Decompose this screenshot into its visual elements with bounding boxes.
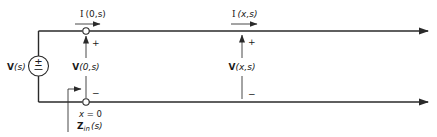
line-voltage-plus: + (248, 37, 256, 47)
input-voltage-plus: + (92, 38, 100, 48)
line-voltage-minus: − (248, 89, 256, 99)
input-current: I(0,s) (75, 9, 106, 24)
input-terminal-bottom-icon (83, 99, 89, 105)
source-polarity-symbol: ± (34, 57, 42, 68)
source-label: V(s) (7, 62, 26, 72)
input-impedance-label: Zin(s) (77, 121, 103, 133)
line-voltage: + V(x,s) − (229, 35, 256, 99)
line-current-label: I(x,s) (232, 9, 257, 19)
input-voltage-label: V(0,s) (72, 62, 99, 72)
line-current: I(x,s) (231, 9, 257, 24)
input-terminal-top-icon (83, 28, 89, 34)
voltage-source: ± V(s) (7, 56, 49, 76)
input-voltage-minus: − (92, 88, 100, 98)
transmission-line-diagram: ± V(s) I(0,s) + V(0,s) − x = 0 Zin(s) (0, 0, 437, 137)
line-voltage-label: V(x,s) (229, 62, 256, 72)
input-current-label: I(0,s) (80, 9, 106, 19)
position-label: x = 0 (78, 109, 102, 119)
